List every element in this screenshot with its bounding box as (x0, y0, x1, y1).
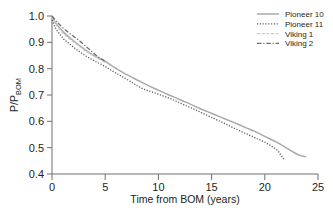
y-axis-title-subscript: BOM (14, 78, 23, 95)
x-tick-label: 25 (312, 181, 324, 193)
x-tick-label: 20 (259, 181, 271, 193)
y-axis-title: P/PBOM (8, 78, 23, 112)
x-axis-title: Time from BOM (years) (130, 193, 239, 205)
legend-label-1: Pioneer 11 (285, 20, 324, 29)
chart-legend: Pioneer 10Pioneer 11Viking 1Viking 2 (257, 10, 324, 48)
y-axis-title-main: P/P (8, 95, 20, 112)
series-line-0 (52, 16, 306, 157)
legend-label-2: Viking 1 (285, 30, 314, 39)
y-tick-label: 0.7 (29, 89, 44, 101)
y-tick-label: 0.8 (29, 63, 44, 75)
x-tick-label: 10 (152, 181, 164, 193)
chart-figure: 0.40.50.60.70.80.91.0 0510152025 P/PBOM … (0, 0, 333, 217)
y-tick-label: 0.6 (29, 115, 44, 127)
x-tick-label: 0 (49, 181, 55, 193)
y-axis-tick-labels: 0.40.50.60.70.80.91.0 (29, 10, 44, 180)
legend-label-3: Viking 2 (285, 39, 314, 48)
series-line-3 (52, 16, 105, 61)
y-tick-label: 0.9 (29, 36, 44, 48)
y-axis-tick-marks (47, 16, 52, 174)
y-tick-label: 0.4 (29, 168, 44, 180)
x-axis-tick-marks (52, 174, 318, 180)
line-chart: 0.40.50.60.70.80.91.0 0510152025 P/PBOM … (0, 0, 333, 217)
series-line-1 (52, 20, 284, 160)
x-tick-label: 15 (205, 181, 217, 193)
svg-text:P/PBOM: P/PBOM (8, 78, 23, 112)
x-tick-label: 5 (102, 181, 108, 193)
y-tick-label: 1.0 (29, 10, 44, 22)
legend-label-0: Pioneer 10 (285, 10, 324, 19)
y-tick-label: 0.5 (29, 142, 44, 154)
data-series-group (52, 16, 306, 160)
x-axis-tick-labels: 0510152025 (49, 181, 324, 193)
